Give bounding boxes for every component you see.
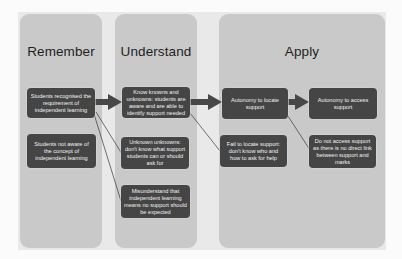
node-apply-not-access: Do not access support as there is no dir… (309, 135, 376, 168)
node-remember-not-aware: Students not aware of the concept of ind… (27, 134, 96, 168)
node-text: Students not aware of the concept of ind… (30, 141, 93, 162)
node-understand-unknown-unknowns: Unknown unknowns: don't know what suppor… (121, 137, 189, 169)
column-apply: Apply (219, 14, 385, 248)
node-text: Fail to locate support: don't know who a… (223, 141, 284, 162)
node-text: Autonomy to access support (312, 97, 374, 111)
node-text: Know knowns and unknowns: students are a… (125, 89, 187, 117)
node-text: Do not access support as there is no dir… (312, 138, 373, 166)
column-title-remember: Remember (20, 44, 102, 59)
diagram-canvas: Remember Understand Apply (0, 0, 402, 259)
node-text: Misunderstand that independent learning … (124, 188, 187, 216)
node-apply-locate: Autonomy to locate support (222, 88, 288, 119)
column-title-apply: Apply (219, 44, 385, 59)
node-text: Autonomy to locate support (225, 97, 285, 111)
node-apply-access: Autonomy to access support (309, 88, 377, 119)
node-understand-misunderstand: Misunderstand that independent learning … (121, 185, 190, 218)
node-text: Unknown unknowns: don't know what suppor… (124, 139, 186, 167)
column-remember: Remember (20, 14, 102, 248)
node-apply-fail-locate: Fail to locate support: don't know who a… (220, 135, 287, 167)
node-remember-recognised: Students recognised the requirement of i… (27, 88, 95, 118)
column-title-understand: Understand (115, 44, 197, 59)
node-understand-knowns: Know knowns and unknowns: students are a… (122, 87, 190, 118)
node-text: Students recognised the requirement of i… (30, 93, 92, 114)
